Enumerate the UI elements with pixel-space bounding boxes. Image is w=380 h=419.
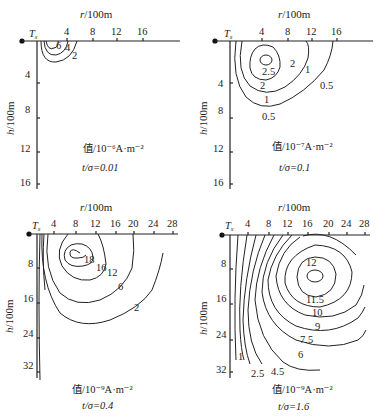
time-label: t/σ=0.01	[82, 162, 118, 173]
svg-text:4: 4	[25, 69, 31, 80]
svg-text:16: 16	[110, 218, 121, 229]
contour-label: 6	[118, 281, 123, 292]
contour-label: 1	[264, 94, 269, 105]
svg-text:8: 8	[25, 104, 30, 115]
contour-label: 10	[312, 307, 323, 318]
svg-text:32: 32	[23, 360, 34, 371]
contour-label: 2	[290, 58, 295, 69]
x-ticks: 4 8 12 16	[64, 26, 148, 41]
svg-text:12: 12	[213, 143, 224, 154]
svg-text:12: 12	[20, 143, 31, 154]
svg-text:24: 24	[23, 328, 34, 339]
x-axis-label: r/100m	[278, 8, 311, 20]
contour-label: 0.5	[262, 111, 275, 122]
contours	[39, 234, 163, 380]
svg-text:12: 12	[90, 218, 101, 229]
panel-top-right: r/100m Tx 4 8 12 16 4 8 12 16 h/100m 2.	[197, 8, 373, 189]
unit-label: 值/10⁻⁹A·m⁻²	[72, 383, 133, 395]
svg-text:8: 8	[73, 218, 78, 229]
svg-text:12: 12	[282, 218, 293, 229]
svg-text:20: 20	[128, 218, 139, 229]
contour-label: 16	[96, 262, 107, 273]
x-axis-label: r/100m	[80, 8, 113, 20]
unit-label: 值/10⁻⁹A·m⁻²	[272, 383, 333, 395]
contour-label: 9	[315, 321, 320, 332]
contour-label: 1	[305, 64, 310, 75]
contour-label: 18	[84, 254, 95, 265]
contour-label: 2.5	[251, 368, 264, 379]
svg-text:20: 20	[323, 218, 334, 229]
svg-text:28: 28	[359, 218, 370, 229]
svg-text:24: 24	[148, 218, 159, 229]
source-label: Tx	[29, 28, 38, 40]
x-ticks: 4 8 12 16 20 24 28	[245, 218, 370, 235]
contour-label: 0.5	[320, 80, 333, 91]
y-axis-label: h/100m	[197, 301, 209, 335]
contour-label: 4.5	[271, 366, 284, 377]
contour-label: 1	[238, 351, 243, 362]
contour-label: 2.5	[262, 66, 275, 77]
svg-text:8: 8	[221, 258, 226, 269]
y-axis-label: h/100m	[3, 299, 15, 333]
source-label: Tx	[225, 220, 234, 232]
svg-text:16: 16	[302, 218, 313, 229]
svg-text:24: 24	[341, 218, 352, 229]
svg-text:24: 24	[216, 329, 227, 340]
svg-text:4: 4	[51, 218, 57, 229]
svg-text:8: 8	[28, 258, 33, 269]
x-ticks: 4 8 12 16	[259, 26, 342, 41]
time-label: t/σ=1.6	[278, 401, 310, 412]
contour-label: 6	[298, 349, 303, 360]
figure-canvas: r/100m Tx 4 8 12 16 4 8 12 16 h/100m 6 4…	[0, 0, 380, 419]
contour-label: 12	[107, 267, 118, 278]
contour-label: 11.5	[306, 294, 324, 305]
svg-text:16: 16	[23, 293, 34, 304]
x-axis-label: r/100m	[278, 201, 311, 213]
contour-label: 4	[65, 42, 71, 53]
svg-text:4: 4	[218, 78, 224, 89]
unit-label: 值/10⁻⁶A·m⁻²	[83, 142, 144, 154]
svg-text:16: 16	[137, 26, 148, 37]
svg-text:16: 16	[20, 177, 31, 188]
svg-text:12: 12	[306, 26, 317, 37]
y-axis-label: h/100m	[197, 101, 209, 135]
contour-label: 2	[134, 302, 139, 313]
svg-text:4: 4	[64, 26, 70, 37]
contour-label: 6	[56, 40, 61, 51]
x-axis-label: r/100m	[80, 201, 113, 213]
svg-text:16: 16	[331, 26, 342, 37]
time-label: t/σ=0.1	[279, 162, 310, 173]
svg-text:32: 32	[216, 364, 227, 375]
svg-text:16: 16	[216, 293, 227, 304]
svg-text:8: 8	[218, 105, 223, 116]
contour-label: 12	[306, 257, 317, 268]
svg-text:28: 28	[167, 218, 178, 229]
contour-label: 7.5	[300, 334, 313, 345]
svg-text:8: 8	[90, 26, 95, 37]
contour-label: 2	[260, 80, 265, 91]
contour-label: 2	[72, 50, 77, 61]
source-label: Tx	[224, 28, 233, 40]
x-ticks: 4 8 12 16 20 24 28	[51, 218, 178, 234]
y-axis-label: h/100m	[4, 101, 16, 135]
unit-label: 值/10⁻⁷A·m⁻²	[272, 140, 333, 152]
svg-text:8: 8	[266, 218, 271, 229]
svg-text:4: 4	[259, 26, 265, 37]
panel-bottom-right: r/100m Tx 4 8 12 16 20 24 28 8 16 24 32 …	[197, 201, 370, 412]
contours	[235, 41, 333, 106]
svg-text:4: 4	[245, 218, 251, 229]
svg-text:8: 8	[285, 26, 290, 37]
panel-top-left: r/100m Tx 4 8 12 16 4 8 12 16 h/100m 6 4…	[4, 8, 180, 189]
time-label: t/σ=0.4	[82, 400, 114, 411]
panel-bottom-left: r/100m Tx 4 8 12 16 20 24 28 8 16 24 32 …	[3, 201, 178, 411]
svg-text:16: 16	[213, 177, 224, 188]
svg-text:12: 12	[111, 26, 122, 37]
source-label: Tx	[32, 220, 41, 232]
